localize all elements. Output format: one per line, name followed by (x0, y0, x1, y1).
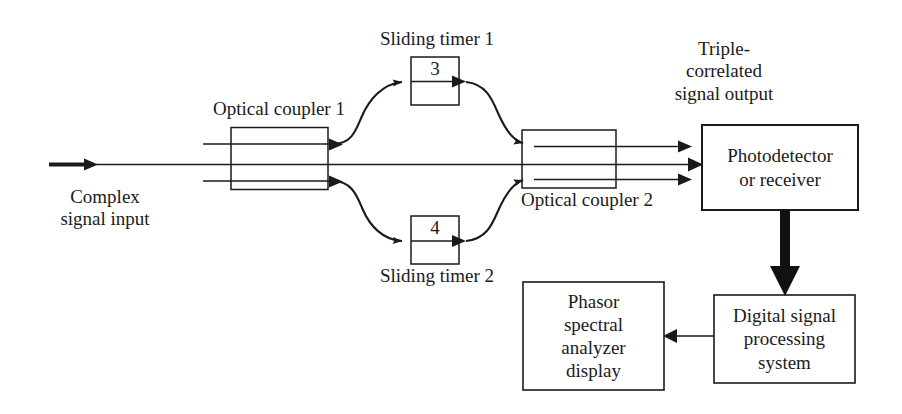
complex-signal-input-label: Complex signal input (30, 186, 180, 231)
photodetector-to-dsp-arrow (770, 210, 800, 296)
dsp-label: Digital signal processing system (714, 295, 855, 383)
sliding-timer-1-label: Sliding timer 1 (363, 28, 511, 50)
arrow-into-photodetector (688, 158, 703, 172)
phasor-display-label: Phasor spectral analyzer display (523, 282, 664, 390)
timer1-to-coupler2-path (466, 82, 523, 143)
optical-coupler-1-label: Optical coupler 1 (196, 98, 362, 120)
optical-coupler-1-box (231, 128, 328, 190)
figure-canvas: Complex signal input Optical coupler 1 S… (0, 0, 902, 414)
sliding-timer-2-value: 4 (411, 214, 459, 242)
photodetector-label: Photodetector or receiver (702, 125, 858, 210)
sliding-timer-2-label: Sliding timer 2 (363, 265, 511, 287)
coupler2-bottom-output-line (534, 174, 692, 186)
dsp-to-display-arrow (663, 329, 714, 343)
coupler1-to-timer2-path (329, 176, 402, 242)
triple-correlated-output-label: Triple- correlated signal output (640, 38, 808, 105)
input-signal-line (49, 159, 702, 171)
optical-coupler-2-label: Optical coupler 2 (504, 189, 670, 211)
coupler2-top-output-line (534, 141, 692, 153)
sliding-timer-1-value: 3 (411, 55, 459, 83)
